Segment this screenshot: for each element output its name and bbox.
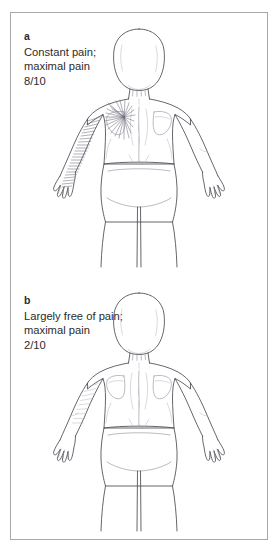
lower-back-dimple-left-b bbox=[129, 419, 133, 426]
hip-outline-b bbox=[101, 428, 177, 486]
paraspinal-right-a bbox=[145, 109, 148, 145]
arm-left-outer-a bbox=[60, 119, 88, 176]
head-outline-a bbox=[114, 29, 165, 91]
figure-frame: a Constant pain; maximal pain 8/10 bbox=[10, 12, 268, 540]
leg-right-outer-a bbox=[173, 222, 178, 267]
hair-strand-right-b bbox=[156, 310, 158, 336]
head-outline-b bbox=[114, 293, 165, 355]
leg-right-inner-b bbox=[141, 471, 142, 531]
leg-left-inner-a bbox=[137, 207, 138, 267]
nape-hair-tuft-1-a bbox=[133, 90, 134, 96]
neck-left-a bbox=[129, 89, 131, 99]
scapula-right-spine-a bbox=[155, 117, 170, 119]
arm-right-outer-b bbox=[191, 383, 219, 440]
body-diagram-b bbox=[34, 277, 244, 541]
lat-fold-right-b bbox=[167, 403, 172, 423]
pain-hatch-arm-a bbox=[62, 117, 100, 187]
leg-left-outer-a bbox=[101, 222, 106, 267]
lat-fold-right-a bbox=[167, 139, 172, 159]
lat-fold-left-b bbox=[106, 403, 111, 423]
neck-left-b bbox=[129, 353, 131, 363]
neck-right-b bbox=[148, 353, 150, 363]
gluteal-crease-right-b bbox=[139, 462, 171, 471]
lat-fold-left-a bbox=[106, 139, 111, 159]
lower-back-dimple-right-b bbox=[146, 419, 150, 426]
lower-back-dimple-left-a bbox=[129, 155, 133, 162]
scapula-right-a bbox=[153, 111, 171, 134]
hair-strand-left-a bbox=[121, 45, 123, 71]
leg-right-inner-a bbox=[141, 207, 142, 267]
hairline-nape-b bbox=[128, 349, 150, 354]
hip-outline-a bbox=[101, 164, 177, 222]
leg-left-outer-b bbox=[101, 486, 106, 531]
scapula-left-spine-b bbox=[109, 381, 124, 383]
nape-hair-tuft-1-b bbox=[133, 354, 134, 360]
gluteal-crease-right-a bbox=[139, 198, 171, 207]
paraspinal-right-b bbox=[145, 373, 148, 409]
paraspinal-left-b bbox=[130, 373, 133, 409]
panel-b: b Largely free of pain; maximal pain 2/1… bbox=[11, 277, 267, 541]
pain-hatch-shoulder-a bbox=[105, 100, 135, 139]
scapula-right-b bbox=[153, 375, 171, 398]
paraspinal-left-a bbox=[130, 109, 133, 145]
scapula-left-b bbox=[107, 375, 125, 398]
hairline-nape-a bbox=[128, 85, 150, 90]
nape-hair-tuft-4-b bbox=[145, 354, 146, 360]
neck-right-a bbox=[148, 89, 150, 99]
leg-right-outer-b bbox=[173, 486, 178, 531]
body-diagram-a bbox=[34, 13, 244, 277]
hair-strand-left-b bbox=[121, 309, 123, 335]
hand-right-b bbox=[203, 436, 225, 462]
hair-strand-right-a bbox=[156, 46, 158, 72]
panel-a: a Constant pain; maximal pain 8/10 bbox=[11, 13, 267, 277]
underwear-fold-b bbox=[108, 433, 170, 435]
underwear-fold-a bbox=[108, 169, 170, 171]
scapula-right-spine-b bbox=[155, 381, 170, 383]
nape-hair-tuft-4-a bbox=[145, 90, 146, 96]
hand-left-a bbox=[54, 172, 76, 198]
gluteal-crease-left-b bbox=[107, 462, 139, 471]
arm-right-outer-a bbox=[191, 119, 219, 176]
arm-left-outer-b bbox=[60, 383, 88, 440]
lower-back-dimple-right-a bbox=[146, 155, 150, 162]
hand-right-a bbox=[203, 172, 225, 198]
leg-left-inner-b bbox=[137, 471, 138, 531]
hand-left-b bbox=[54, 436, 76, 462]
gluteal-crease-left-a bbox=[107, 198, 139, 207]
